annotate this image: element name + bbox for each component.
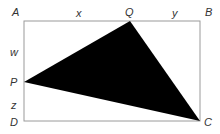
vertex-label-d: D: [10, 117, 18, 128]
vertex-label-q: Q: [125, 7, 134, 18]
segment-label-x: x: [76, 8, 82, 19]
segment-label-w: w: [10, 47, 18, 58]
vertex-label-b: B: [205, 7, 212, 18]
geometry-diagram: [0, 0, 220, 134]
segment-label-y: y: [172, 8, 178, 19]
vertex-label-c: C: [204, 117, 212, 128]
segment-label-z: z: [11, 100, 17, 111]
shaded-triangle-pqc: [24, 21, 200, 121]
vertex-label-p: P: [10, 77, 17, 88]
vertex-label-a: A: [12, 7, 19, 18]
